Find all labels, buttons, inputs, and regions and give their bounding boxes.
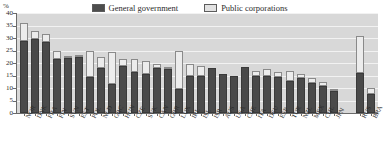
- bar-segment-public-corporations: [86, 51, 94, 77]
- bar-SVK: [142, 61, 150, 114]
- bar-segment-general-government: [42, 42, 50, 113]
- bar-segment-general-government: [75, 57, 83, 113]
- bar-segment-general-government: [219, 74, 227, 113]
- bar-segment-public-corporations: [53, 51, 61, 60]
- bar-DEU: [263, 69, 271, 113]
- bar-segment-public-corporations: [97, 57, 105, 68]
- bar-GRC: [108, 52, 116, 113]
- legend-label-public-corporations: Public corporations: [221, 4, 287, 12]
- bar-segment-public-corporations: [20, 23, 28, 41]
- bar-LUX: [175, 51, 183, 114]
- bar-DNK: [31, 31, 39, 114]
- legend-label-general-government: General government: [109, 4, 179, 12]
- bar-FRA: [42, 34, 50, 113]
- bar-ISL: [197, 66, 205, 114]
- dark-square-icon: [92, 4, 105, 12]
- legend-item-general-government: General government: [92, 4, 179, 12]
- bar-segment-public-corporations: [186, 64, 194, 75]
- y-axis-tick-label: 40: [0, 10, 13, 17]
- bar-segment-public-corporations: [131, 59, 139, 72]
- bar-ISR: [208, 68, 216, 113]
- y-axis-tick-label: 25: [0, 47, 13, 54]
- y-axis-tick-label: 20: [0, 60, 13, 67]
- y-axis-tick-label: 0: [0, 110, 13, 117]
- y-axis-tick-label: 10: [0, 85, 13, 92]
- bar-SVN: [64, 56, 72, 114]
- bar-segment-general-government: [64, 58, 72, 113]
- bar-EST: [75, 56, 83, 114]
- bar-TUR: [286, 71, 294, 114]
- x-axis-labels: NORDNKFRAFINSVNESTPOLNLDGRCHUNCZESVKCANG…: [16, 116, 377, 145]
- y-axis-tick-label: 35: [0, 22, 13, 29]
- bar-segment-public-corporations: [197, 66, 205, 76]
- bar-series-container: [17, 13, 378, 113]
- bar-segment-public-corporations: [142, 61, 150, 75]
- bar-segment-public-corporations: [108, 52, 116, 85]
- bar-FIN: [53, 51, 61, 114]
- bar-segment-public-corporations: [175, 51, 183, 90]
- y-axis-tick-label: 5: [0, 97, 13, 104]
- y-axis-tick-label: 15: [0, 72, 13, 79]
- bar-segment-public-corporations: [356, 36, 364, 74]
- bar-segment-general-government: [197, 76, 205, 114]
- bar-segment-public-corporations: [42, 34, 50, 42]
- plot-area: [16, 13, 378, 114]
- bar-segment-general-government: [208, 68, 216, 113]
- bar-AUS: [219, 74, 227, 113]
- bar-segment-public-corporations: [31, 31, 39, 40]
- bar-NOR: [20, 23, 28, 113]
- y-axis-tick-label: 30: [0, 35, 13, 42]
- bar-segment-general-government: [356, 73, 364, 113]
- bar-POL: [86, 51, 94, 114]
- bar-segment-public-corporations: [286, 71, 294, 81]
- bar-segment-general-government: [20, 41, 28, 114]
- legend-item-public-corporations: Public corporations: [204, 4, 287, 12]
- bar-NLD: [97, 57, 105, 113]
- bar-segment-general-government: [31, 39, 39, 113]
- bar-RUS: [356, 36, 364, 114]
- light-square-icon: [204, 4, 217, 12]
